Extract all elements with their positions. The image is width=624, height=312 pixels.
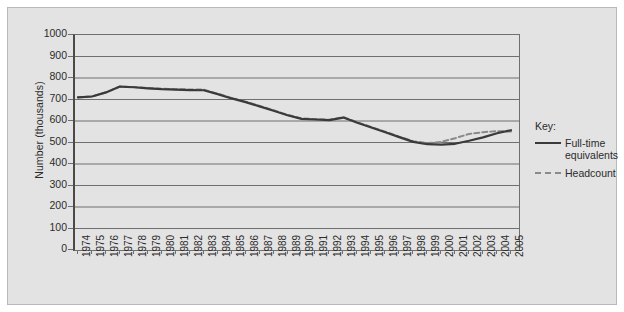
solid-line-icon [535, 137, 561, 149]
plot-svg [75, 35, 520, 250]
x-tick-mark [496, 250, 497, 254]
y-tick-label: 800 [27, 71, 67, 81]
x-tick-mark [314, 250, 315, 254]
series-line-headcount [78, 87, 511, 144]
series-lines [78, 87, 511, 145]
x-tick-mark [203, 250, 204, 254]
x-tick-mark [370, 250, 371, 254]
x-tick-mark [412, 250, 413, 254]
legend-title: Key: [535, 120, 621, 132]
x-tick-mark [426, 250, 427, 254]
y-tick-label: 100 [27, 222, 67, 232]
y-tick-label: 600 [27, 114, 67, 124]
y-tick-label: 700 [27, 93, 67, 103]
x-tick-mark [161, 250, 162, 254]
x-tick-mark [273, 250, 274, 254]
y-tick-label: 900 [27, 50, 67, 60]
legend-label-full-time-equivalents: Full-time equivalents [565, 137, 618, 161]
x-tick-mark [119, 250, 120, 254]
x-tick-mark [217, 250, 218, 254]
x-tick-mark [454, 250, 455, 254]
x-tick-mark [259, 250, 260, 254]
x-tick-mark [77, 250, 78, 254]
legend-entry-full-time-equivalents: Full-time equivalents [535, 137, 621, 161]
x-tick-mark [133, 250, 134, 254]
y-tick-label: 0 [27, 243, 67, 253]
y-tick-label: 200 [27, 200, 67, 210]
y-tick-label: 400 [27, 157, 67, 167]
legend-entry-headcount: Headcount [535, 167, 621, 179]
chart-panel: Number (thousands) 010020030040050060070… [7, 7, 617, 305]
series-line-full-time-equivalents [78, 87, 511, 145]
plot-area [73, 34, 520, 251]
x-tick-mark [440, 250, 441, 254]
x-tick-mark [342, 250, 343, 254]
x-tick-mark [287, 250, 288, 254]
x-tick-mark [482, 250, 483, 254]
x-tick-mark [91, 250, 92, 254]
x-tick-mark [189, 250, 190, 254]
y-tick-label: 1000 [27, 28, 67, 38]
x-tick-label: 2005 [514, 235, 525, 257]
x-tick-mark [510, 250, 511, 254]
x-tick-mark [231, 250, 232, 254]
x-tick-mark [468, 250, 469, 254]
gridlines [75, 57, 520, 229]
legend-label-headcount: Headcount [565, 167, 616, 179]
x-tick-mark [147, 250, 148, 254]
dashed-line-icon [535, 167, 561, 179]
x-tick-mark [300, 250, 301, 254]
x-tick-mark [245, 250, 246, 254]
x-tick-mark [356, 250, 357, 254]
y-tick-label: 300 [27, 179, 67, 189]
legend-label-line1: Full-time [565, 137, 605, 149]
chart-figure: Number (thousands) 010020030040050060070… [0, 0, 624, 312]
x-tick-mark [398, 250, 399, 254]
x-tick-mark [105, 250, 106, 254]
x-tick-mark [328, 250, 329, 254]
x-tick-mark [175, 250, 176, 254]
x-tick-mark [384, 250, 385, 254]
legend-label-line2: equivalents [565, 149, 618, 161]
chart-legend: Key: Full-time equivalents Headcount [535, 120, 621, 185]
y-tick-label: 500 [27, 136, 67, 146]
